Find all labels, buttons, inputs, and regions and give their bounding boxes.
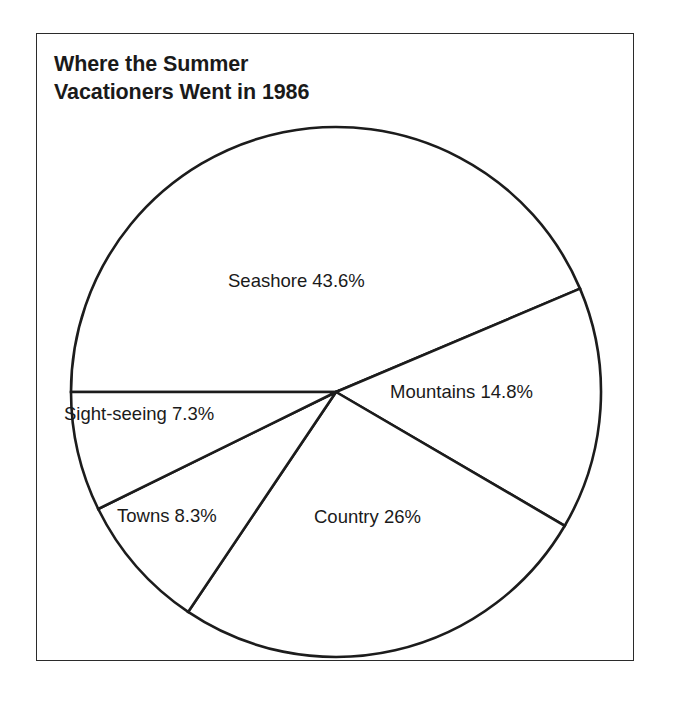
slice-label-seashore: Seashore 43.6% xyxy=(228,270,365,292)
slice-label-mountains: Mountains 14.8% xyxy=(390,381,533,403)
slice-label-sightseeing: Sight-seeing 7.3% xyxy=(64,403,214,425)
slice-label-towns: Towns 8.3% xyxy=(117,505,217,527)
chart-title: Where the Summer Vacationers Went in 198… xyxy=(54,51,384,106)
pie-chart xyxy=(37,34,635,662)
scan-artifact xyxy=(300,6,360,16)
chart-figure-frame: Where the Summer Vacationers Went in 198… xyxy=(36,33,634,661)
slice-label-country: Country 26% xyxy=(314,506,421,528)
